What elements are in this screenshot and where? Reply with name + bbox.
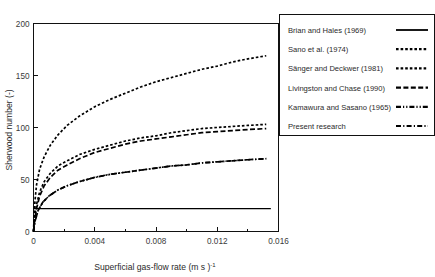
x-tick-label: 0.012 [207,237,228,246]
legend-label-5: Present research [288,122,346,131]
y-tick-label: 200 [16,20,30,29]
x-tick-label: 0.008 [146,237,167,246]
curve-series-1 [34,56,267,232]
axis-frame [34,24,279,232]
y-tick-label: 50 [20,176,30,185]
legend-label-0: Brian and Hales (1969) [288,26,367,35]
figure-container: 050100150200 00.0040.0080.0120.016 Sherw… [0,0,435,277]
curve-series-3 [34,129,267,232]
x-axis-ticks [34,227,279,232]
x-tick-label: 0.016 [268,237,289,246]
data-curves [34,56,271,232]
x-axis-exponent: -1 [210,262,216,268]
y-tick-label: 150 [16,72,30,81]
sherwood-number-chart: 050100150200 00.0040.0080.0120.016 Sherw… [0,0,435,277]
legend-label-2: Sänger and Deckwer (1981) [288,64,383,73]
y-axis-tick-labels: 050100150200 [16,20,30,237]
x-tick-label: 0 [31,237,36,246]
y-tick-label: 0 [25,228,30,237]
plot-frame [34,24,279,232]
legend: Brian and Hales (1969)Sano et al. (1974)… [280,15,435,136]
curve-series-5 [34,159,267,232]
y-tick-label: 100 [16,124,30,133]
y-axis-title: Sherwood number (-) [4,89,14,170]
x-tick-label: 0.004 [85,237,106,246]
y-axis-ticks [34,24,38,232]
x-axis-title: Superficial gas-flow rate (m s )-1 [94,262,216,272]
x-axis-tick-labels: 00.0040.0080.0120.016 [31,237,289,246]
legend-label-4: Kamawura and Sasano (1965) [288,103,391,112]
legend-label-3: Livingston and Chase (1990) [288,84,386,93]
legend-label-1: Sano et al. (1974) [288,45,349,54]
